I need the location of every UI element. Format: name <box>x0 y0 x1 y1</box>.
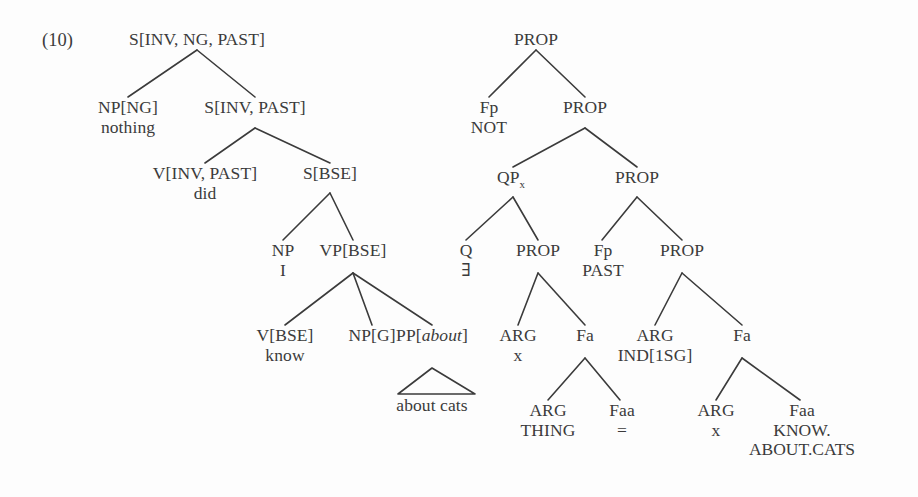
edge-vpbse-ppabout <box>353 273 432 325</box>
edge-proproot-fpnot <box>489 50 536 97</box>
edge-prop5-faright <box>682 273 742 325</box>
node-label: ARG <box>521 401 576 421</box>
node-prop-root: PROP <box>514 30 558 50</box>
node-v-inv-past: V[INV, PAST] did <box>153 164 257 203</box>
node-label: Fp <box>582 241 624 261</box>
edge-prop2-qpx <box>513 128 585 167</box>
node-pp-about: PP[about] <box>396 326 468 346</box>
node-arg-ind: ARG IND[1SG] <box>618 326 693 365</box>
node-fa-right: Fa <box>733 326 751 346</box>
node-fa-left: Fa <box>576 326 594 346</box>
example-number: (10) <box>42 30 73 51</box>
pp-suffix: ] <box>462 325 468 345</box>
node-lexical-item: nothing <box>98 118 158 138</box>
pp-triangle <box>398 368 475 394</box>
node-label: PROP <box>563 98 607 118</box>
node-faa-know-about-cats: Faa KNOW. ABOUT.CATS <box>749 401 855 460</box>
edge-faleft-argthing <box>548 358 585 400</box>
node-label: PROP <box>615 168 659 188</box>
node-lexical-item: know <box>257 346 314 366</box>
node-lexical-item: = <box>609 421 635 441</box>
node-fp-not: Fp NOT <box>471 98 507 137</box>
node-label: NP <box>272 241 295 261</box>
edge-sinvpast-vinvpast <box>205 128 255 163</box>
node-label: PROP <box>516 241 560 261</box>
node-label: Fa <box>733 326 751 346</box>
node-lexical-item: did <box>153 184 257 204</box>
node-arg-thing: ARG THING <box>521 401 576 440</box>
node-pp-triangle-lexical: about cats <box>396 396 467 416</box>
node-label: Fa <box>576 326 594 346</box>
linguistics-figure: (10) S[INV, NG, PAST] NP[NG] nothing S[I… <box>0 0 918 497</box>
node-label: S[INV, PAST] <box>204 98 305 118</box>
node-label: Q <box>460 241 473 261</box>
node-lexical-item: THING <box>521 421 576 441</box>
edge-qpx-prop4 <box>513 197 538 240</box>
edge-proproot-prop2 <box>536 50 585 97</box>
edge-vpbse-vbse <box>285 273 353 325</box>
node-lexical-item: PAST <box>582 261 624 281</box>
node-s-inv-ng-past: S[INV, NG, PAST] <box>129 30 265 50</box>
pp-prefix: PP[ <box>396 325 422 345</box>
node-label: NP[NG] <box>98 98 158 118</box>
node-label: V[INV, PAST] <box>153 164 257 184</box>
edge-prop4-argx <box>518 273 538 325</box>
node-label: Faa <box>749 401 855 421</box>
node-prop-4: PROP <box>516 241 560 261</box>
node-label: Fp <box>471 98 507 118</box>
node-label: Faa <box>609 401 635 421</box>
node-lexical-item: x <box>697 421 734 441</box>
node-prop-2: PROP <box>563 98 607 118</box>
edge-faright-argx2 <box>716 358 742 400</box>
edge-prop2-prop3 <box>585 128 637 167</box>
node-lexical-item: about cats <box>396 396 467 416</box>
node-fp-past: Fp PAST <box>582 241 624 280</box>
node-lexical-item: NOT <box>471 118 507 138</box>
edge-sinvpast-sbse <box>255 128 330 163</box>
edge-sbse-vpbse <box>330 193 353 240</box>
node-lexical-item-line2: ABOUT.CATS <box>749 440 855 460</box>
node-label: QPx <box>497 168 525 190</box>
node-label: ARG <box>499 326 536 346</box>
node-label: V[BSE] <box>257 326 314 346</box>
node-label: PROP <box>660 241 704 261</box>
edge-prop3-prop5 <box>637 197 682 240</box>
edge-prop4-faleft <box>538 273 585 325</box>
node-lexical-item: IND[1SG] <box>618 346 693 366</box>
pp-italic-head: about <box>422 325 462 345</box>
node-label: PP[about] <box>396 326 468 346</box>
node-label: ARG <box>697 401 734 421</box>
node-label: NP[G] <box>348 326 395 346</box>
edge-faleft-faaeq <box>585 358 620 400</box>
node-faa-equals: Faa = <box>609 401 635 440</box>
node-arg-x2: ARG x <box>697 401 734 440</box>
node-qp-x: QPx <box>497 168 525 190</box>
edge-faright-faaknow <box>742 358 800 400</box>
edge-root-npng <box>128 50 197 97</box>
node-arg-x: ARG x <box>499 326 536 365</box>
edge-prop5-argind <box>655 273 682 325</box>
node-np-g: NP[G] <box>348 326 395 346</box>
edge-qpx-q <box>466 197 513 240</box>
node-label: ARG <box>618 326 693 346</box>
node-label: VP[BSE] <box>320 241 387 261</box>
node-vp-bse: VP[BSE] <box>320 241 387 261</box>
node-np: NP I <box>272 241 295 280</box>
node-label: PROP <box>514 30 558 50</box>
node-prop-3: PROP <box>615 168 659 188</box>
edge-root-sinvpast <box>197 50 255 97</box>
node-prop-5: PROP <box>660 241 704 261</box>
edge-vpbse-npg <box>353 273 372 325</box>
node-lexical-item: KNOW. <box>749 421 855 441</box>
existential-quantifier-symbol: ∃ <box>460 261 473 281</box>
qp-base: QP <box>497 167 520 187</box>
node-v-bse: V[BSE] know <box>257 326 314 365</box>
node-s-inv-past: S[INV, PAST] <box>204 98 305 118</box>
node-lexical-item: x <box>499 346 536 366</box>
node-np-ng: NP[NG] nothing <box>98 98 158 137</box>
edge-prop3-fppast <box>602 197 637 240</box>
qp-subscript: x <box>520 178 526 190</box>
node-label: S[BSE] <box>303 164 357 184</box>
node-label: S[INV, NG, PAST] <box>129 30 265 50</box>
node-s-bse: S[BSE] <box>303 164 357 184</box>
